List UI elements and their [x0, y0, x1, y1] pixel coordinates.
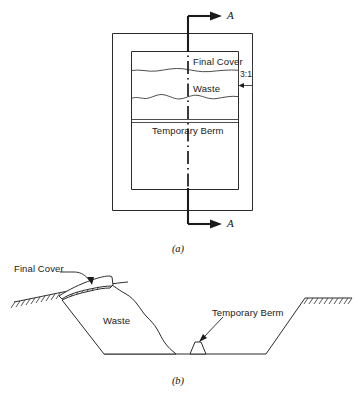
section-label-final-cover: Final Cover — [14, 264, 64, 274]
temporary-berm-mound — [190, 342, 206, 354]
section-view-graphics — [0, 0, 356, 396]
caption-panel-b: (b) — [0, 375, 356, 386]
right-ground-hatch-icon — [304, 298, 352, 304]
landfill-figure: Final Cover Waste Temporary Berm 3:1 A A… — [0, 0, 356, 396]
final-cover-leader-line — [60, 272, 90, 281]
temporary-berm-leader-line — [204, 317, 223, 337]
section-label-waste: Waste — [103, 316, 130, 326]
section-label-temporary-berm: Temporary Berm — [212, 308, 284, 318]
